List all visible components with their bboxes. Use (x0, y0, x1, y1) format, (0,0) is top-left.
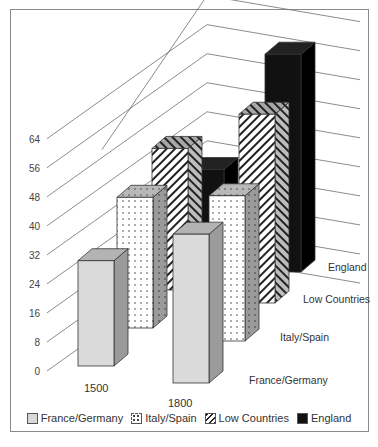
legend: France/Germany Italy/Spain Low Countries… (0, 412, 378, 424)
striped-swatch-icon (205, 413, 216, 424)
svg-text:64: 64 (29, 134, 41, 145)
bar-france-germany-1500 (78, 249, 128, 366)
svg-text:32: 32 (29, 250, 41, 261)
legend-label: Low Countries (219, 412, 289, 424)
svg-text:Italy/Spain: Italy/Spain (280, 331, 329, 343)
legend-item-england: England (297, 412, 351, 424)
svg-text:16: 16 (29, 308, 41, 319)
legend-item-france-germany: France/Germany (27, 412, 124, 424)
y-axis-ticks: 0816243240485664 (29, 134, 41, 377)
svg-text:8: 8 (34, 337, 40, 348)
svg-text:40: 40 (29, 221, 41, 232)
legend-item-italy-spain: Italy/Spain (131, 412, 196, 424)
svg-text:1500: 1500 (84, 382, 108, 394)
black-swatch-icon (297, 413, 308, 424)
svg-text:England: England (328, 261, 367, 273)
svg-text:56: 56 (29, 163, 41, 174)
svg-text:France/Germany: France/Germany (249, 374, 329, 386)
svg-text:1800: 1800 (168, 397, 192, 409)
light-gray-swatch-icon (27, 413, 38, 424)
legend-label: England (311, 412, 351, 424)
dotted-swatch-icon (131, 413, 142, 424)
svg-text:48: 48 (29, 192, 41, 203)
svg-text:24: 24 (29, 279, 41, 290)
legend-item-low-countries: Low Countries (205, 412, 289, 424)
legend-label: Italy/Spain (145, 412, 196, 424)
svg-text:Low Countries: Low Countries (303, 293, 370, 305)
chart-plot-area: 0816243240485664 15001800France/GermanyI… (0, 0, 378, 447)
bar-france-germany-1800 (173, 222, 223, 383)
svg-text:0: 0 (34, 366, 40, 377)
legend-label: France/Germany (41, 412, 124, 424)
